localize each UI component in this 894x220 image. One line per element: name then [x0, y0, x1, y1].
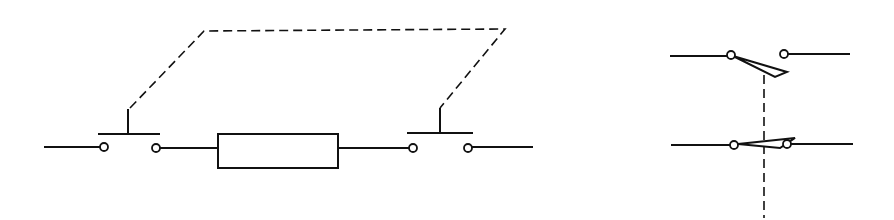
terminal-circle [780, 50, 788, 58]
left-circuit [44, 29, 533, 168]
right-circuit [670, 50, 853, 218]
terminal-circle [464, 144, 472, 152]
terminal-circle [783, 140, 791, 148]
switch-contact-closed [671, 138, 853, 149]
push-button-switch-right [407, 108, 533, 152]
switch-contact-open [670, 50, 850, 77]
terminal-circle [152, 144, 160, 152]
push-button-switch-left [44, 109, 160, 152]
terminal-circle [409, 144, 417, 152]
terminal-circle [100, 143, 108, 151]
switch-blade [733, 56, 787, 77]
mechanical-link-dashed [130, 29, 505, 108]
terminal-circle [730, 141, 738, 149]
resistor [218, 134, 338, 168]
schematic-diagram [0, 0, 894, 220]
terminal-circle [727, 51, 735, 59]
